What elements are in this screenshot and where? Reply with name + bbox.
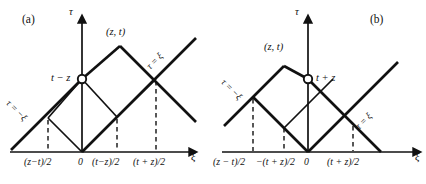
panel-a-inner-right-lower xyxy=(82,79,117,117)
panel-a-inner-left-upper xyxy=(48,79,82,118)
panel-b-tick-label-2: 0 xyxy=(304,157,309,167)
panel-a-tick-label-1: 0 xyxy=(78,157,83,167)
panel-b-tick-label-0: (z − t)/2 xyxy=(213,157,245,167)
panel-a-node-label: t − z xyxy=(51,73,70,84)
panel-a-tick-label-0: (z−t)/2 xyxy=(24,157,51,167)
panel-b-node-label: t + z xyxy=(316,73,335,84)
panel-b-point-label: (z, t) xyxy=(264,42,283,53)
panel-a-graphics xyxy=(10,22,196,152)
panel-a-inner-right-upper xyxy=(117,79,156,117)
panel-b-tag: (b) xyxy=(370,14,383,26)
panel-b-node-circle xyxy=(304,75,312,83)
panel-a-xi-axis-label: ξ xyxy=(191,152,196,163)
panel-b-inner-left-lower xyxy=(253,97,284,128)
panel-a-tag: (a) xyxy=(22,14,35,26)
panel-b-inner-right-upper xyxy=(284,104,308,128)
panel-a-node-circle xyxy=(78,75,86,83)
panel-a-tick-label-2: (t−z)/2 xyxy=(92,157,119,167)
panel-b-graphics xyxy=(222,22,414,152)
panel-b-xi-axis-label: ξ xyxy=(415,152,420,163)
panel-b-tick-label-1: −(t + z)/2 xyxy=(256,157,295,167)
panel-b-tick-label-3: (t + z)/2 xyxy=(327,157,359,167)
panel-a-point-label: (z, t) xyxy=(106,27,125,38)
panel-a-tau-axis-label: τ xyxy=(69,7,73,18)
panel-a-tick-label-3: (t + z)/2 xyxy=(133,157,165,167)
panel-b-tau-axis-label: τ xyxy=(295,7,299,18)
panel-b-inner-node-link-2 xyxy=(308,79,353,124)
panel-a-inner-left-lower xyxy=(48,118,82,152)
panel-a-diamond-upper-left xyxy=(82,46,120,79)
figure-container: (a) τ ξ (z, t) t − z τ = ξ τ = −ξ (z−t)/… xyxy=(0,0,426,184)
